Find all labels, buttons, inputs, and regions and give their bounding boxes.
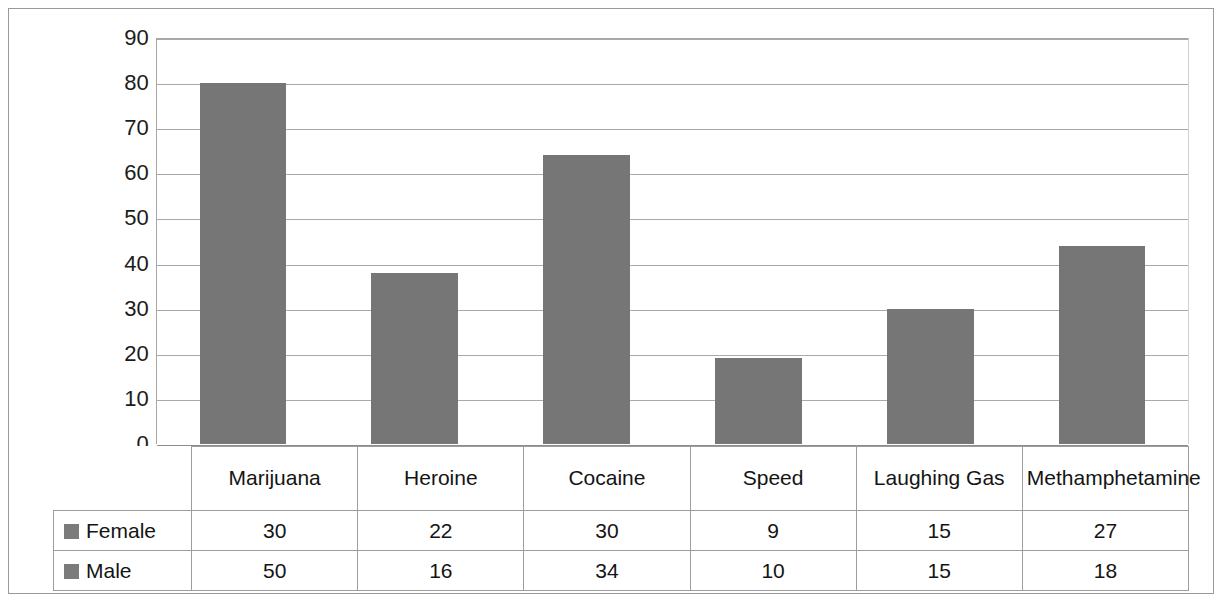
legend-swatch-female (64, 524, 79, 539)
y-axis-tick-label: 20 (29, 343, 149, 365)
table-cell: 30 (192, 511, 358, 551)
table-cell: 15 (856, 511, 1022, 551)
chart-frame: 9080706050403020100 MarijuanaHeroineCoca… (8, 8, 1214, 594)
bar (371, 273, 458, 444)
bar (887, 309, 974, 444)
y-axis-tick-label: 70 (29, 117, 149, 139)
table-cell: 30 (524, 511, 690, 551)
bar (715, 358, 802, 444)
legend-cell-male: Male (54, 551, 192, 591)
y-axis-tick-label: 40 (29, 253, 149, 275)
table-cell: 34 (524, 551, 690, 591)
y-axis-tick-label: 50 (29, 207, 149, 229)
data-table: MarijuanaHeroineCocaineSpeedLaughing Gas… (53, 446, 1189, 591)
table-cell: 15 (856, 551, 1022, 591)
table-cell: 9 (690, 511, 856, 551)
y-axis-tick-label: 80 (29, 72, 149, 94)
table-row: Female 30223091527 (54, 511, 1189, 551)
y-axis-tick-label: 60 (29, 162, 149, 184)
table-cell: 50 (192, 551, 358, 591)
table-cell: 10 (690, 551, 856, 591)
table-cell: 18 (1022, 551, 1188, 591)
table-cell: 22 (358, 511, 524, 551)
table-header-cell: Laughing Gas (856, 447, 1022, 511)
y-axis-tick-label: 30 (29, 298, 149, 320)
table-header-cell: Marijuana (192, 447, 358, 511)
chart-screenshot: 9080706050403020100 MarijuanaHeroineCoca… (0, 0, 1223, 609)
table-header-row: MarijuanaHeroineCocaineSpeedLaughing Gas… (54, 447, 1189, 511)
legend-label-male: Male (86, 559, 132, 582)
plot-area (156, 38, 1189, 444)
legend-cell-female: Female (54, 511, 192, 551)
table-cell: 16 (358, 551, 524, 591)
plot-area-wrapper (156, 38, 1189, 444)
table-header-cell: Cocaine (524, 447, 690, 511)
table-header-cell: Methamphetamine (1022, 447, 1188, 511)
table-corner-cell (54, 447, 192, 511)
table-header-cell: Speed (690, 447, 856, 511)
table-cell: 27 (1022, 511, 1188, 551)
table-header-cell: Heroine (358, 447, 524, 511)
legend-swatch-male (64, 564, 79, 579)
bar (543, 155, 630, 444)
y-axis: 9080706050403020100 (29, 38, 149, 444)
table-row: Male 501634101518 (54, 551, 1189, 591)
y-axis-tick-label: 90 (29, 27, 149, 49)
legend-label-female: Female (86, 519, 156, 542)
bar-series (157, 39, 1188, 444)
bar (1059, 246, 1146, 444)
bar (200, 83, 287, 444)
y-axis-tick-label: 10 (29, 388, 149, 410)
